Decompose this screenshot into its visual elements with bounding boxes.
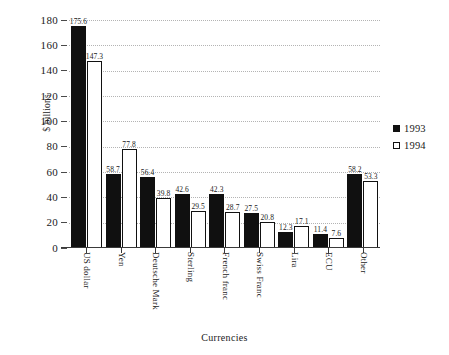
bar-group: 42.328.7 [209,20,240,248]
x-axis-tick-label: ECU [324,252,333,271]
plot-area: 175.6147.358.777.856.439.842.629.542.328… [69,20,380,248]
bar-1994: 53.3 [363,181,378,249]
bar-1993: 27.5 [244,213,259,248]
y-axis-tick-mark [61,20,67,21]
x-axis-tick-label: Yen [116,252,125,267]
y-axis-tick-mark [61,146,67,147]
x-axis-label-ecu: ECU [321,252,335,342]
bar-1993: 11.4 [313,234,328,248]
bar-group: 27.520.8 [244,20,275,248]
bar-value-label: 58.2 [348,166,362,174]
bar-group: 56.439.8 [140,20,171,248]
bar-value-label: 20.8 [261,214,275,222]
bar-value-label: 7.6 [332,230,342,238]
bar-value-label: 77.8 [122,141,136,149]
y-axis-tick-label: 180 [28,15,58,26]
bar-group: 11.47.6 [313,20,344,248]
bar-1993: 58.2 [347,174,362,248]
bar-group: 175.6147.3 [71,20,102,248]
y-axis-tick-mark [61,172,67,173]
x-axis-label-french-franc: French franc [218,252,232,342]
bar-group: 58.253.3 [347,20,378,248]
bar-value-label: 53.3 [364,173,378,181]
y-axis-tick-mark [61,45,67,46]
x-axis-line [61,247,380,248]
bar-1993: 12.3 [278,232,293,248]
y-axis-tick-label: 160 [28,40,58,51]
legend-item-label: 1993 [404,123,426,134]
x-axis-title: Currencies [0,332,449,343]
y-axis-tick-label: 100 [28,116,58,127]
bar-value-label: 175.6 [70,18,87,26]
legend-item-1994: 1994 [393,139,426,152]
bar-group: 42.629.5 [175,20,206,248]
bar-1993: 175.6 [71,26,86,248]
y-axis-tick-label: 140 [28,65,58,76]
x-axis-tick-label: Other [358,252,367,274]
bar-value-label: 39.8 [157,190,171,198]
bar-series-container: 175.6147.358.777.856.439.842.629.542.328… [69,20,380,248]
bar-1993: 56.4 [140,177,155,248]
x-axis-label-deutsche-mark: Deutsche Mark [148,252,162,342]
x-axis-label-lira: Lira [287,252,301,342]
bar-1994: 20.8 [260,222,275,248]
legend: 19931994 [393,122,426,156]
bar-value-label: 147.3 [86,53,103,61]
filled-square-icon [393,125,400,132]
y-axis-tick-label: 40 [28,192,58,203]
y-axis-tick-label: 20 [28,217,58,228]
bar-1994: 28.7 [225,212,240,248]
x-axis-tick-label: US dollar [82,252,91,289]
y-axis-tick-label: 120 [28,91,58,102]
x-axis-tick-label: Deutsche Mark [151,252,160,310]
bar-value-label: 42.6 [175,186,189,194]
x-axis-tick-label: Lira [289,252,298,268]
bar-1993: 42.6 [175,194,190,248]
bar-value-label: 29.5 [191,203,205,211]
y-axis-tick-label: 60 [28,167,58,178]
bar-1994: 29.5 [191,211,206,248]
bar-chart: $ billions 020406080100120140160180 175.… [0,0,449,355]
bar-1993: 58.7 [106,174,121,248]
bar-value-label: 11.4 [314,226,327,234]
bar-1993: 42.3 [209,194,224,248]
bar-1994: 39.8 [156,198,171,248]
bar-value-label: 17.1 [295,218,309,226]
x-axis-tick-label: Swiss Franc [255,252,264,298]
bar-value-label: 58.7 [106,166,120,174]
legend-item-1993: 1993 [393,122,426,135]
bar-value-label: 56.4 [141,169,155,177]
y-axis-tick-mark [61,96,67,97]
bar-group: 12.317.1 [278,20,309,248]
y-axis-tick-mark [61,121,67,122]
hollow-square-icon [393,142,400,149]
x-axis-label-other: Other [356,252,370,342]
bar-1994: 17.1 [294,226,309,248]
x-axis-label-sterling: Sterling [183,252,197,342]
x-axis-tick-label: Sterling [185,252,194,282]
bar-group: 58.777.8 [106,20,137,248]
bar-value-label: 28.7 [226,204,240,212]
bar-value-label: 42.3 [210,186,224,194]
y-axis-tick-label: 80 [28,141,58,152]
legend-item-label: 1994 [404,140,426,151]
x-axis-label-yen: Yen [114,252,128,342]
y-axis-tick-mark [61,222,67,223]
bar-1994: 147.3 [87,61,102,248]
x-axis-tick-label: French franc [220,252,229,300]
y-axis-tick-label: 0 [28,243,58,254]
bar-value-label: 12.3 [279,224,293,232]
bar-1994: 77.8 [122,149,137,248]
x-axis-label-us-dollar: US dollar [79,252,93,342]
bar-value-label: 27.5 [245,205,259,213]
y-axis-tick-mark [61,197,67,198]
x-axis-label-swiss-franc: Swiss Franc [252,252,266,342]
y-axis-tick-mark [61,70,67,71]
